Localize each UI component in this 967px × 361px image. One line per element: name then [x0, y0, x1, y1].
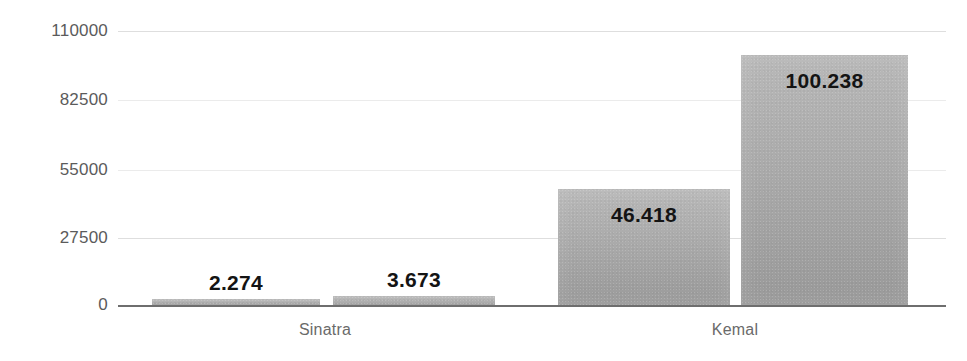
category-label-kemal: Kemal	[712, 321, 758, 339]
bar-value-label: 2.274	[209, 271, 263, 295]
bar-value-label: 3.673	[387, 268, 441, 292]
bar-value-label: 100.238	[785, 69, 863, 93]
bar-chart: 110000 82500 55000 27500 0 2.2743.67346.…	[0, 0, 967, 361]
bar-2[interactable]	[333, 296, 495, 305]
bar-value-label: 46.418	[611, 203, 677, 227]
x-axis-line	[118, 305, 946, 307]
category-label-sinatra: Sinatra	[299, 321, 351, 339]
